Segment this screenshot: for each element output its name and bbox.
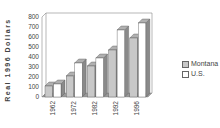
us-swatch-icon [182, 71, 189, 78]
y-axis-label: Real 1996 Dollars [4, 55, 11, 65]
legend: Montana U.S. [182, 59, 218, 79]
svg-text:0: 0 [35, 93, 39, 100]
svg-text:500: 500 [28, 43, 39, 50]
svg-text:1982: 1982 [91, 101, 98, 116]
svg-text:1992: 1992 [112, 101, 119, 116]
svg-text:300: 300 [28, 63, 39, 70]
svg-text:700: 700 [28, 23, 39, 30]
svg-text:600: 600 [28, 33, 39, 40]
svg-text:1996: 1996 [134, 101, 141, 116]
svg-text:200: 200 [28, 73, 39, 80]
svg-text:100: 100 [28, 83, 39, 90]
legend-item-us: U.S. [182, 69, 218, 79]
svg-text:1962: 1962 [49, 101, 56, 116]
legend-item-montana: Montana [182, 59, 218, 69]
svg-text:1972: 1972 [70, 101, 77, 116]
svg-text:800: 800 [28, 13, 39, 20]
svg-text:400: 400 [28, 53, 39, 60]
montana-swatch-icon [182, 61, 189, 68]
